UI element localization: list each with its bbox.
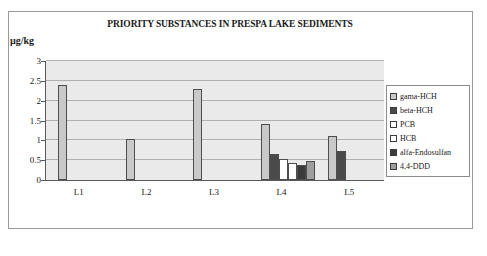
legend-item[interactable]: HCB: [390, 131, 466, 145]
x-tick-label-l3: L3: [194, 187, 234, 197]
legend-swatch-icon: [390, 107, 397, 114]
y-tick-label: 1.5: [7, 116, 41, 126]
legend-label: 4,4-DDD: [400, 162, 430, 171]
bar[interactable]: [328, 136, 337, 180]
bar-group-l5: [328, 61, 384, 180]
bar[interactable]: [193, 89, 202, 180]
chart-legend: gama-HCHbeta-HCHPCBHCBalfa-Endosulfan4,4…: [386, 85, 470, 177]
bar-group-l3: [193, 61, 249, 180]
legend-label: beta-HCH: [400, 106, 433, 115]
legend-label: PCB: [400, 120, 415, 129]
bar[interactable]: [279, 159, 288, 180]
legend-swatch-icon: [390, 149, 397, 156]
y-axis-ticks: 00.511.522.53: [0, 61, 41, 181]
y-tick-label: 0.5: [7, 155, 41, 165]
bar[interactable]: [270, 154, 279, 180]
legend-item[interactable]: 4,4-DDD: [390, 159, 466, 173]
legend-label: HCB: [400, 134, 416, 143]
legend-swatch-icon: [390, 93, 397, 100]
bar[interactable]: [58, 85, 67, 180]
y-tick-label: 0: [7, 175, 41, 185]
legend-swatch-icon: [390, 121, 397, 128]
bar[interactable]: [126, 139, 135, 180]
legend-label: alfa-Endosulfan: [400, 148, 451, 157]
bar[interactable]: [288, 163, 297, 180]
legend-swatch-icon: [390, 163, 397, 170]
legend-item[interactable]: beta-HCH: [390, 103, 466, 117]
bar[interactable]: [261, 124, 270, 180]
legend-item[interactable]: alfa-Endosulfan: [390, 145, 466, 159]
y-tick-label: 3: [7, 56, 41, 66]
x-tick-label-l4: L4: [262, 187, 302, 197]
legend-item[interactable]: gama-HCH: [390, 89, 466, 103]
bar-group-l2: [126, 61, 182, 180]
x-tick-label-l1: L1: [59, 187, 99, 197]
y-tick-label: 1: [7, 135, 41, 145]
bar[interactable]: [337, 151, 346, 180]
plot-area: [45, 61, 384, 181]
legend-item[interactable]: PCB: [390, 117, 466, 131]
y-axis-unit-label: µg/kg: [10, 35, 34, 46]
chart-title: PRIORITY SUBSTANCES IN PRESPA LAKE SEDIM…: [60, 19, 400, 29]
legend-swatch-icon: [390, 135, 397, 142]
legend-label: gama-HCH: [400, 92, 437, 101]
x-tick-label-l5: L5: [329, 187, 369, 197]
y-tick-label: 2: [7, 96, 41, 106]
chart-page: PRIORITY SUBSTANCES IN PRESPA LAKE SEDIM…: [0, 0, 487, 256]
bar[interactable]: [306, 161, 315, 180]
bar[interactable]: [297, 165, 306, 180]
x-tick-label-l2: L2: [126, 187, 166, 197]
bar-group-l1: [58, 61, 114, 180]
bar-group-l4: [261, 61, 317, 180]
y-tick-label: 2.5: [7, 76, 41, 86]
